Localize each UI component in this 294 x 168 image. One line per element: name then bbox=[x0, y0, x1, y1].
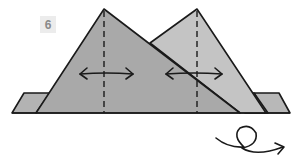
turn-over-arrow-icon bbox=[216, 126, 284, 154]
origami-diagram bbox=[0, 0, 294, 168]
